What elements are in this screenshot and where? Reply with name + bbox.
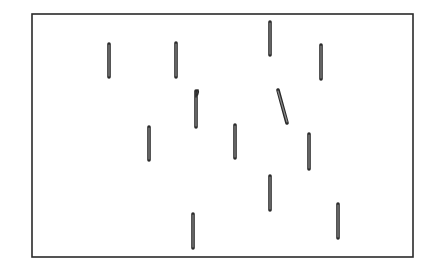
diagram-canvas — [0, 0, 438, 262]
background — [0, 0, 438, 262]
